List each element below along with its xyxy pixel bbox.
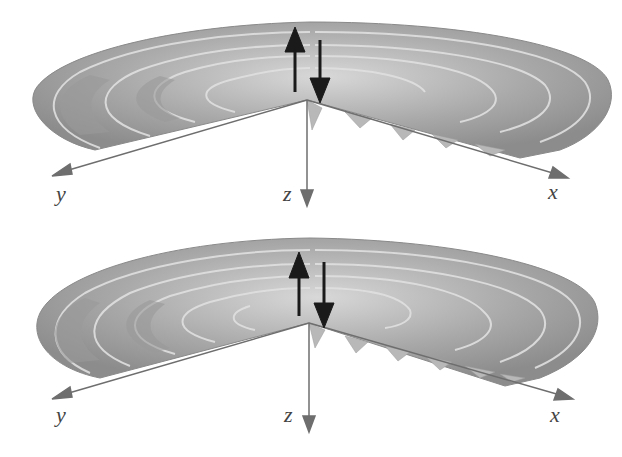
panel-bottom: y z x (0, 228, 622, 456)
y-axis-arrowhead (52, 387, 72, 399)
y-axis-label: y (56, 404, 66, 426)
z-axis-label: z (284, 404, 293, 426)
surface-plot-top (0, 0, 622, 228)
x-axis-arrowhead (554, 389, 573, 400)
z-axis-label: z (283, 183, 292, 205)
y-axis-arrowhead (52, 164, 72, 176)
x-axis-arrowhead (549, 167, 568, 178)
panel-top: y z x (0, 0, 622, 228)
x-axis-label: x (548, 181, 558, 203)
x-axis-label: x (550, 404, 560, 426)
y-axis-label: y (56, 183, 66, 205)
z-axis-arrowhead (301, 190, 313, 206)
surface-plot-bottom (0, 228, 622, 457)
z-axis-arrowhead (303, 416, 315, 432)
